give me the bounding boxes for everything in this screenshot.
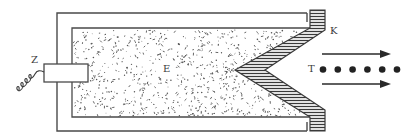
jet-particle: [394, 66, 401, 73]
jet-particle: [320, 66, 327, 73]
jet-particles: [320, 66, 401, 73]
outer-casing: [57, 13, 307, 131]
detonator-plug: [44, 64, 88, 82]
jet-particle: [349, 66, 356, 73]
arrow-right-icon: [322, 80, 391, 88]
label-plug-z: Z: [31, 55, 38, 65]
inner-chamber: [72, 28, 310, 117]
explosive-fill: [73, 29, 312, 117]
jet-particle: [379, 66, 386, 73]
detonator-wire-coil-icon: [17, 71, 44, 91]
jet-particle: [364, 66, 371, 73]
label-explosive-e: E: [163, 64, 170, 74]
arrow-right-icon: [322, 50, 391, 58]
jet-particle: [335, 66, 342, 73]
shaped-charge-diagram: [0, 0, 415, 139]
label-liner-k: K: [330, 26, 337, 36]
label-jet-t: T: [308, 64, 315, 74]
